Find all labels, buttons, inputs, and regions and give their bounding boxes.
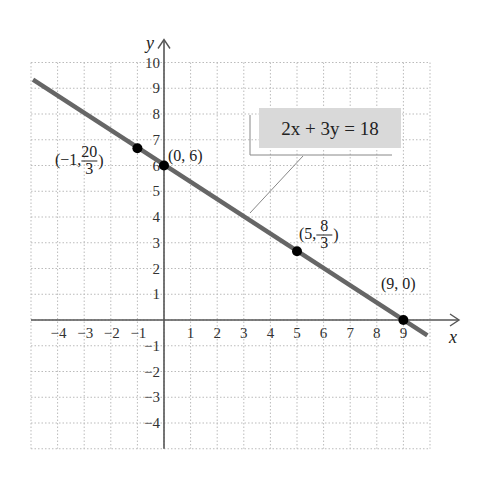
svg-text:): ) <box>333 226 338 244</box>
x-tick-label: 1 <box>187 325 195 341</box>
axes <box>31 40 459 449</box>
point-label: (−1, 203) <box>55 143 104 177</box>
equation-label: 2x + 3y = 18 <box>281 118 378 139</box>
y-tick-label: 1 <box>153 286 161 302</box>
x-tick-label: 8 <box>373 325 381 341</box>
svg-text:(−1,: (−1, <box>55 151 81 169</box>
data-point <box>292 246 302 256</box>
x-tick-label: 5 <box>293 325 301 341</box>
x-axis-label: x <box>448 327 457 347</box>
y-axis-label: y <box>144 33 154 53</box>
chart: −4−3−2−1123456789−4−3−2−112345678910 2x … <box>0 0 488 478</box>
callout-leader-line <box>250 156 303 213</box>
y-tick-label: −1 <box>144 338 160 354</box>
equation-callout: 2x + 3y = 18 <box>250 108 401 213</box>
y-tick-label: 3 <box>153 235 161 251</box>
svg-text:): ) <box>98 152 103 170</box>
data-points: (−1, 203)(0, 6)(5, 83)(9, 0) <box>55 143 416 325</box>
point-label: (0, 6) <box>168 147 203 165</box>
data-point <box>398 315 408 325</box>
svg-text:3: 3 <box>85 160 93 177</box>
y-tick-label: 7 <box>153 132 161 148</box>
point-label: (9, 0) <box>381 275 416 293</box>
y-tick-label: 5 <box>153 183 161 199</box>
y-tick-label: 2 <box>153 261 161 277</box>
x-tick-label: 7 <box>346 325 354 341</box>
y-tick-label: 4 <box>153 209 161 225</box>
x-tick-label: 3 <box>240 325 248 341</box>
svg-text:20: 20 <box>81 143 97 160</box>
svg-text:(5,: (5, <box>299 225 316 243</box>
y-tick-label: −3 <box>144 389 160 405</box>
y-tick-label: 10 <box>145 55 160 71</box>
x-tick-label: −3 <box>77 325 93 341</box>
x-tick-label: 4 <box>267 325 275 341</box>
svg-text:3: 3 <box>320 234 328 251</box>
x-tick-label: 2 <box>213 325 221 341</box>
x-tick-label: 9 <box>400 325 408 341</box>
x-tick-label: 6 <box>320 325 328 341</box>
data-point <box>132 143 142 153</box>
y-tick-label: 9 <box>153 80 161 96</box>
y-tick-label: −4 <box>144 415 160 431</box>
x-tick-label: −2 <box>104 325 120 341</box>
y-tick-label: −2 <box>144 364 160 380</box>
svg-text:8: 8 <box>320 217 328 234</box>
x-tick-label: −4 <box>51 325 67 341</box>
y-tick-label: 8 <box>153 106 161 122</box>
point-label: (5, 83) <box>299 217 339 251</box>
